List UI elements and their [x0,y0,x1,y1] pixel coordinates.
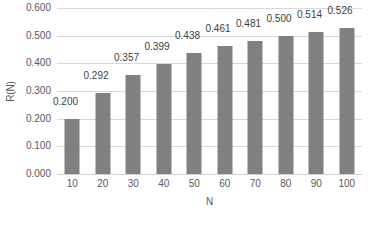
bar-group: 0.481 [240,8,271,174]
x-axis-tick-label: 50 [189,178,200,190]
x-axis-tick-label: 100 [338,178,355,190]
bar-value-label: 0.292 [84,71,109,81]
x-axis-tick-label: 10 [67,178,78,190]
y-axis-tick-label: 0.500 [26,31,51,41]
y-axis-tick-labels: 0.0000.1000.2000.3000.4000.5000.600 [16,8,54,174]
bar [217,46,232,174]
x-axis-tick-label: 60 [219,178,230,190]
y-axis-tick-label: 0.300 [26,86,51,96]
x-axis-title: N [57,196,362,207]
bar-group: 0.357 [118,8,149,174]
bar [248,41,263,174]
gridline [57,174,362,175]
bar-value-label: 0.438 [175,31,200,41]
plot-area: 0.2000.2920.3570.3990.4380.4610.4810.500… [57,8,362,174]
bars-layer: 0.2000.2920.3570.3990.4380.4610.4810.500… [57,8,362,174]
x-axis-tick-label: 90 [311,178,322,190]
bar [309,32,324,174]
bar [339,28,354,174]
bar [95,93,110,174]
x-axis-tick-label: 70 [250,178,261,190]
y-axis-tick-label: 0.200 [26,114,51,124]
y-axis-tick-label: 0.600 [26,3,51,13]
x-axis-tick-label: 80 [280,178,291,190]
bar-value-label: 0.399 [145,42,170,52]
bar [65,119,80,174]
bar-value-label: 0.357 [114,53,139,63]
bar [156,64,171,174]
bar [126,75,141,174]
x-axis-tick-label: 40 [158,178,169,190]
y-axis-tick-label: 0.100 [26,141,51,151]
bar-value-label: 0.461 [206,24,231,34]
y-axis-title-text: R(N) [5,81,16,101]
bar-value-label: 0.500 [267,14,292,24]
bar [187,53,202,174]
x-axis-tick-labels: 102030405060708090100 [57,178,362,192]
bar-value-label: 0.481 [236,19,261,29]
x-axis-tick-label: 30 [128,178,139,190]
bar [278,36,293,174]
bar-group: 0.292 [88,8,119,174]
bar-chart: R(N) 0.0000.1000.2000.3000.4000.5000.600… [0,0,377,225]
bar-group: 0.526 [332,8,363,174]
bar-group: 0.461 [210,8,241,174]
bar-group: 0.500 [271,8,302,174]
bar-value-label: 0.514 [297,10,322,20]
y-axis-tick-label: 0.400 [26,58,51,68]
bar-group: 0.514 [301,8,332,174]
bar-value-label: 0.200 [53,97,78,107]
x-axis-tick-label: 20 [97,178,108,190]
bar-group: 0.200 [57,8,88,174]
y-axis-tick-label: 0.000 [26,169,51,179]
bar-value-label: 0.526 [328,6,353,16]
